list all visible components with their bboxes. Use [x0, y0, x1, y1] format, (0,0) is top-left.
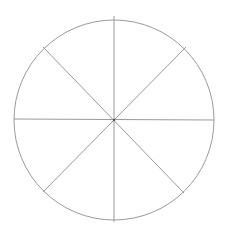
center-point	[113, 119, 115, 121]
circle-diagram-canvas	[0, 0, 225, 231]
divided-circle-diagram	[0, 0, 225, 231]
